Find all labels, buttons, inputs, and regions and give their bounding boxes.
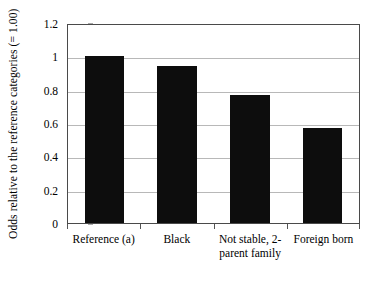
- y-axis-tick-label: 0: [52, 218, 58, 230]
- x-axis-tick-mark: [140, 224, 141, 229]
- bar: [157, 66, 196, 223]
- x-axis-category-labels: Reference (a)BlackNot stable, 2-parent f…: [67, 232, 360, 261]
- y-axis-tick-label: 0.4: [44, 151, 58, 163]
- x-axis-label-line: Reference (a): [68, 232, 139, 246]
- x-axis-category-label: Black: [140, 232, 213, 261]
- bar-chart-figure: Odds relative to the reference categorie…: [0, 0, 390, 283]
- x-axis-category-label: Foreign born: [287, 232, 360, 261]
- y-axis-tick-labels: 00.20.40.60.811.2: [26, 24, 62, 224]
- y-axis-tick-label: 0.6: [44, 118, 58, 130]
- y-axis-tick-label: 1.2: [44, 18, 58, 30]
- x-axis-label-line: Not stable, 2-: [215, 232, 286, 246]
- y-axis-title-container: Odds relative to the reference categorie…: [0, 0, 26, 248]
- x-axis-label-line: Foreign born: [288, 232, 359, 246]
- plot-area: [67, 24, 360, 224]
- bar-slot: [214, 25, 287, 223]
- bar-slot: [141, 25, 214, 223]
- x-axis-label-line: parent family: [215, 246, 286, 260]
- bar-series: [68, 25, 359, 223]
- y-axis-title: Odds relative to the reference categorie…: [7, 9, 19, 240]
- bar-slot: [286, 25, 359, 223]
- x-axis-tick-mark: [287, 224, 288, 229]
- x-axis-label-line: Black: [141, 232, 212, 246]
- bar-slot: [68, 25, 141, 223]
- x-axis-category-label: Reference (a): [67, 232, 140, 261]
- bar: [303, 128, 342, 223]
- y-axis-tick-label: 1: [52, 51, 58, 63]
- bar: [230, 95, 269, 223]
- x-axis-tick-mark: [67, 224, 68, 229]
- x-axis-category-label: Not stable, 2-parent family: [214, 232, 287, 261]
- x-axis-tick-mark: [214, 224, 215, 229]
- x-axis-tick-mark: [359, 224, 360, 229]
- bar: [85, 56, 124, 223]
- y-axis-tick-label: 0.8: [44, 85, 58, 97]
- y-axis-tick-label: 0.2: [44, 185, 58, 197]
- x-axis-tick-marks: [67, 224, 360, 230]
